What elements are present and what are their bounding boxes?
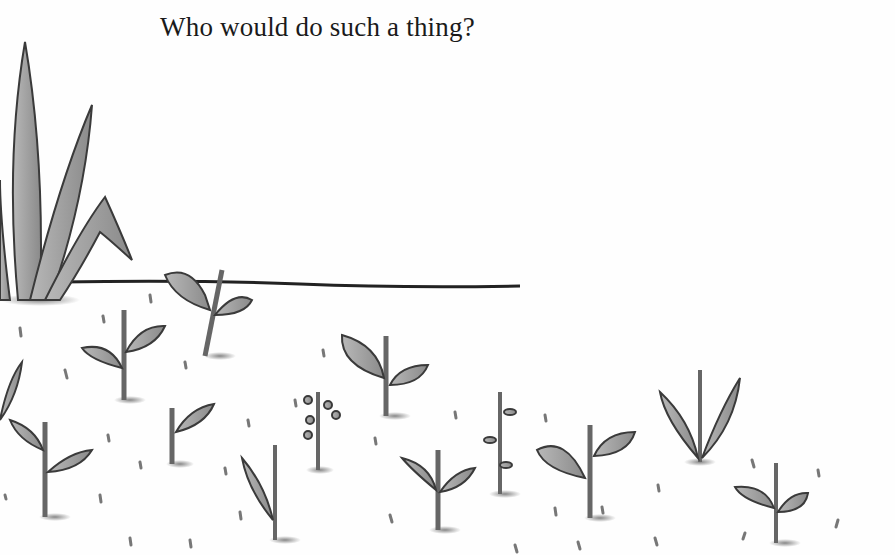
seedlings: [0, 270, 808, 547]
horizon-line: [60, 281, 520, 286]
seedling: [660, 370, 740, 466]
seedling: [166, 404, 214, 468]
seedling: [10, 420, 92, 521]
seedling: [402, 450, 475, 534]
seedling: [82, 310, 165, 404]
seedling: [242, 445, 301, 544]
seeds: [5, 295, 838, 552]
seedling: [342, 335, 428, 420]
field-illustration: [0, 0, 895, 555]
seedling: [537, 425, 635, 522]
seedling: [304, 392, 340, 474]
agave-plant: [0, 42, 132, 306]
seedling: [484, 392, 521, 498]
seedling: [0, 362, 22, 420]
